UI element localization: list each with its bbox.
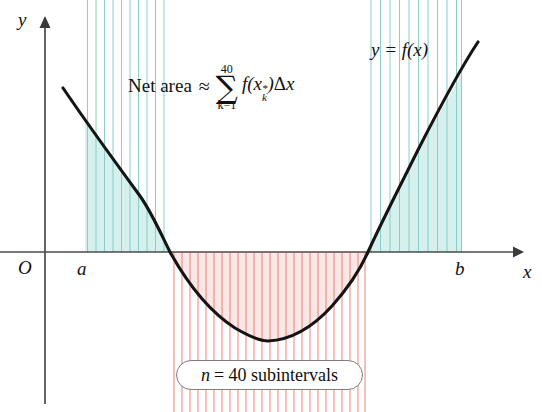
approx-symbol: ≈ [199, 75, 210, 98]
y-axis-arrowhead [40, 16, 51, 28]
summand-star-subscript: * k [262, 83, 268, 103]
subscript-k: k [262, 92, 267, 103]
sigma-icon: ∑ [216, 74, 238, 100]
summation-lower-limit: k=1 [217, 99, 236, 111]
curve-equation-label: y = f(x) [371, 40, 428, 59]
positive-region-left [63, 0, 170, 252]
summand-function-open: f(x [242, 73, 262, 94]
x-axis-label: x [523, 262, 531, 281]
delta-symbol: Δ [274, 73, 286, 94]
caption-n-symbol: n [201, 365, 210, 386]
net-area-formula: Net area ≈ 40 ∑ k=1 f(x * k )Δx [128, 62, 294, 110]
net-area-text: Net area [128, 75, 192, 97]
summand-expression: f(x * k )Δx [242, 73, 295, 101]
y-axis-label: y [18, 10, 26, 29]
x-axis-arrowhead [513, 247, 524, 258]
delta-variable: x [286, 73, 294, 94]
origin-label: O [18, 258, 32, 277]
caption-text: = 40 subintervals [214, 365, 338, 386]
upper-bound-label-b: b [455, 259, 465, 278]
summation-group: 40 ∑ k=1 [216, 63, 238, 111]
lower-bound-label-a: a [77, 259, 87, 278]
subintervals-caption-box: n = 40 subintervals [176, 360, 363, 390]
